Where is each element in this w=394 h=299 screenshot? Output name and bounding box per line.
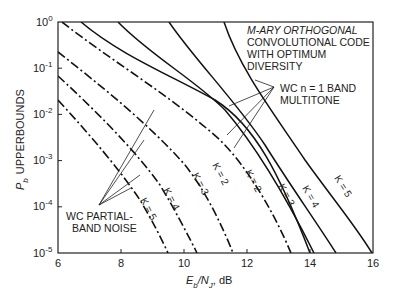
svg-text:10-3: 10-3 bbox=[33, 152, 53, 166]
x-axis bbox=[121, 249, 310, 253]
svg-text:BAND NOISE: BAND NOISE bbox=[72, 222, 137, 234]
svg-text:8: 8 bbox=[118, 257, 124, 269]
svg-text:K = 5: K = 5 bbox=[332, 173, 354, 199]
svg-text:14: 14 bbox=[304, 257, 316, 269]
partial-band-annotation: WC PARTIAL- BAND NOISE bbox=[66, 210, 137, 234]
svg-text:M-ARY ORTHOGONAL: M-ARY ORTHOGONAL bbox=[247, 24, 358, 36]
svg-text:12: 12 bbox=[241, 257, 253, 269]
svg-text:CONVOLUTIONAL CODE: CONVOLUTIONAL CODE bbox=[247, 36, 370, 48]
svg-text:WITH OPTIMUM: WITH OPTIMUM bbox=[247, 48, 326, 60]
chart: 100 10-1 10-2 10-3 10-4 10-5 6 8 10 12 1… bbox=[0, 0, 394, 299]
svg-text:K = 4: K = 4 bbox=[161, 186, 182, 212]
svg-text:K = 4: K = 4 bbox=[300, 184, 322, 210]
svg-text:6: 6 bbox=[55, 257, 61, 269]
y-axis-label: PbUPPERBOUNDS bbox=[14, 89, 30, 190]
multitone-annotation: WC n = 1 BAND MULTITONE bbox=[280, 82, 357, 106]
x-tick-labels: 6 8 10 12 14 16 bbox=[55, 257, 379, 269]
svg-text:MULTITONE: MULTITONE bbox=[280, 94, 340, 106]
svg-text:16: 16 bbox=[367, 257, 379, 269]
svg-text:K = 2: K = 2 bbox=[243, 168, 264, 194]
svg-text:10: 10 bbox=[178, 257, 190, 269]
svg-text:WC PARTIAL-: WC PARTIAL- bbox=[66, 210, 133, 222]
svg-text:K = 3: K = 3 bbox=[276, 182, 297, 208]
x-axis-label: Eb/NJ, dB bbox=[186, 274, 232, 290]
svg-text:DIVERSITY: DIVERSITY bbox=[247, 60, 302, 72]
svg-text:10-2: 10-2 bbox=[33, 106, 53, 120]
k-labels: K = 5 K = 4 K = 3 K = 2 K = 2 K = 3 K = … bbox=[138, 161, 354, 222]
chart-title: M-ARY ORTHOGONAL CONVOLUTIONAL CODE WITH… bbox=[247, 24, 370, 72]
svg-text:K = 5: K = 5 bbox=[138, 196, 159, 222]
svg-text:10-1: 10-1 bbox=[33, 60, 53, 74]
y-tick-labels: 100 10-1 10-2 10-3 10-4 10-5 bbox=[33, 14, 53, 259]
svg-text:100: 100 bbox=[36, 14, 53, 28]
svg-text:K = 2: K = 2 bbox=[210, 161, 231, 187]
svg-text:10-4: 10-4 bbox=[33, 198, 53, 212]
svg-text:WC n = 1 BAND: WC n = 1 BAND bbox=[280, 82, 357, 94]
svg-text:K = 3: K = 3 bbox=[190, 171, 211, 197]
svg-text:10-5: 10-5 bbox=[33, 245, 53, 259]
